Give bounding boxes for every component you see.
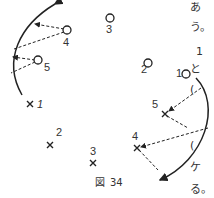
side-text-3: 1 (196, 46, 214, 57)
diagram-canvas: 1 2 3 4 5 1 2 3 4 5 図 34 (0, 0, 214, 198)
circle-5 (34, 56, 42, 64)
side-text-8: る。 (190, 184, 214, 195)
circle-label-3: 3 (106, 23, 112, 35)
cross-label-3: 3 (90, 145, 96, 157)
side-text-5: ( (190, 84, 214, 95)
cross-2 (47, 142, 53, 148)
circle-4 (63, 26, 71, 34)
side-text-6: ( (190, 140, 214, 151)
cross-4 (134, 145, 140, 151)
cross-label-1: 1 (37, 98, 43, 110)
circle-3 (106, 14, 114, 22)
circle-label-4: 4 (63, 36, 69, 48)
circle-label-1: 1 (176, 67, 182, 79)
cross-3 (90, 160, 96, 166)
right-dashed-lines (139, 88, 208, 170)
side-text-4: と (190, 64, 214, 75)
circle-label-5: 5 (44, 61, 50, 73)
caption-prefix: 図 (95, 177, 105, 188)
caption-number: 34 (110, 177, 123, 188)
cross-label-2: 2 (56, 126, 62, 138)
left-dashed-lines (11, 24, 64, 73)
cross-5 (162, 111, 168, 117)
cross-label-5: 5 (152, 98, 158, 110)
circle-label-2: 2 (141, 63, 147, 75)
cross-1 (27, 101, 33, 107)
left-curve-arrow (14, 4, 55, 95)
circle-1 (182, 70, 190, 78)
cross-label-4: 4 (132, 130, 138, 142)
cross-markers (27, 101, 168, 166)
side-text-2: う。 (190, 22, 214, 33)
side-text-1: あ (190, 2, 214, 13)
side-text-7: ケ (190, 162, 214, 173)
